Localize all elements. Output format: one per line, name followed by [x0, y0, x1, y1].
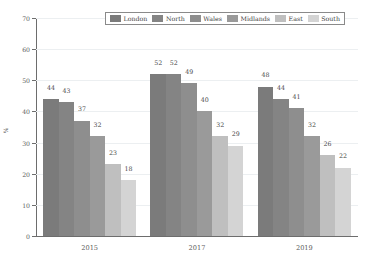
bar-group: 484441322622 [251, 18, 358, 236]
bar-value-label: 43 [62, 88, 70, 95]
bar[interactable] [197, 111, 213, 236]
bar-wrapper: 52 [166, 18, 182, 236]
bar-value-label: 41 [293, 94, 301, 101]
bar-wrapper: 40 [197, 18, 213, 236]
legend-label: Midlands [240, 15, 270, 22]
bar-value-label: 32 [216, 122, 224, 129]
bar-group: 525249403229 [143, 18, 250, 236]
bar-value-label: 26 [324, 140, 332, 147]
bar[interactable] [320, 155, 336, 236]
bar-value-label: 40 [201, 97, 209, 104]
legend-label: South [321, 15, 340, 22]
bar-wrapper: 44 [273, 18, 289, 236]
bar[interactable] [166, 74, 182, 236]
bar-wrapper: 22 [335, 18, 351, 236]
plot-area: 0102030405060704443373223185252494032294… [36, 18, 358, 236]
legend-swatch-icon [152, 15, 163, 22]
bar-wrapper: 26 [320, 18, 336, 236]
bar-wrapper: 32 [90, 18, 106, 236]
y-tick-label: 50 [22, 77, 30, 84]
legend-swatch-icon [190, 15, 201, 22]
legend-swatch-icon [308, 15, 319, 22]
bar-value-label: 44 [277, 84, 285, 91]
bar-value-label: 22 [339, 153, 347, 160]
y-tick-label: 60 [22, 46, 30, 53]
legend-item-wales[interactable]: Wales [190, 15, 222, 22]
bar-chart: % 01020304050607044433732231852524940322… [0, 0, 369, 265]
y-tick-label: 40 [22, 108, 30, 115]
y-tick-label: 0 [26, 233, 30, 240]
legend-label: North [166, 15, 185, 22]
bar-value-label: 32 [93, 122, 101, 129]
bar-wrapper: 32 [212, 18, 228, 236]
legend-label: London [124, 15, 148, 22]
bar-wrapper: 29 [228, 18, 244, 236]
bar-value-label: 48 [262, 72, 270, 79]
x-axis-line [36, 236, 358, 237]
bar[interactable] [150, 74, 166, 236]
legend-swatch-icon [227, 15, 238, 22]
bar-wrapper: 44 [43, 18, 59, 236]
bar[interactable] [273, 99, 289, 236]
bar-wrapper: 48 [258, 18, 274, 236]
y-tick-label: 20 [22, 170, 30, 177]
y-tick-label: 10 [22, 201, 30, 208]
bar-value-label: 44 [47, 84, 55, 91]
bar[interactable] [59, 102, 75, 236]
bar-wrapper: 18 [121, 18, 137, 236]
bar-value-label: 37 [78, 106, 86, 113]
bar-value-label: 52 [170, 59, 178, 66]
bar[interactable] [90, 136, 106, 236]
bar[interactable] [335, 168, 351, 237]
legend-item-north[interactable]: North [152, 15, 184, 22]
legend-item-south[interactable]: South [308, 15, 340, 22]
bar[interactable] [212, 136, 228, 236]
bar-value-label: 23 [109, 150, 117, 157]
bar-group: 444337322318 [36, 18, 143, 236]
bar-wrapper: 37 [74, 18, 90, 236]
y-axis-title: % [2, 128, 9, 134]
bar[interactable] [121, 180, 137, 236]
bar[interactable] [105, 164, 121, 236]
bar-value-label: 29 [232, 131, 240, 138]
bar[interactable] [228, 146, 244, 236]
chart-legend: LondonNorthWalesMidlandsEastSouth [105, 12, 345, 25]
legend-item-london[interactable]: London [110, 15, 147, 22]
legend-item-east[interactable]: East [275, 15, 303, 22]
bar-wrapper: 43 [59, 18, 75, 236]
legend-label: Wales [203, 15, 222, 22]
bar-wrapper: 32 [304, 18, 320, 236]
bar-wrapper: 41 [289, 18, 305, 236]
bar-wrapper: 23 [105, 18, 121, 236]
bar[interactable] [74, 121, 90, 236]
bar[interactable] [258, 87, 274, 236]
bar-wrapper: 49 [181, 18, 197, 236]
bar-wrapper: 52 [150, 18, 166, 236]
bar[interactable] [289, 108, 305, 236]
legend-swatch-icon [110, 15, 121, 22]
bar[interactable] [304, 136, 320, 236]
bar[interactable] [181, 83, 197, 236]
x-tick-label: 2015 [81, 244, 98, 252]
legend-label: East [289, 15, 303, 22]
bar-value-label: 18 [124, 165, 132, 172]
bar-value-label: 52 [154, 59, 162, 66]
bar[interactable] [43, 99, 59, 236]
y-tick-label: 30 [22, 139, 30, 146]
y-tick-mark [32, 236, 36, 237]
y-tick-label: 70 [22, 15, 30, 22]
x-tick-label: 2017 [189, 244, 206, 252]
legend-item-midlands[interactable]: Midlands [227, 15, 270, 22]
x-tick-label: 2019 [296, 244, 313, 252]
bar-value-label: 49 [185, 69, 193, 76]
bar-value-label: 32 [308, 122, 316, 129]
legend-swatch-icon [275, 15, 286, 22]
